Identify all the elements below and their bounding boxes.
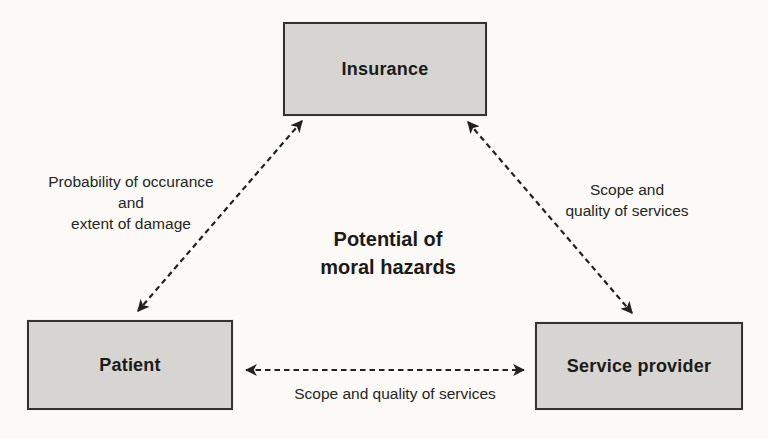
edge-label-line: Scope and [527, 179, 727, 200]
insurance-service-provider-edge-label: Scope and quality of services [527, 179, 727, 221]
moral-hazards-diagram: Insurance Patient Service provider Proba… [0, 0, 768, 439]
patient-service-provider-edge-label: Scope and quality of services [245, 383, 545, 404]
center-caption-line: Potential of [288, 225, 488, 253]
insurance-patient-edge-label: Probability of occurance and extent of d… [21, 171, 241, 234]
edge-label-line: extent of damage [21, 213, 241, 234]
service-provider-node: Service provider [535, 322, 743, 410]
service-provider-node-label: Service provider [567, 356, 711, 377]
edge-label-line: and [21, 192, 241, 213]
center-caption: Potential of moral hazards [288, 225, 488, 281]
patient-node-label: Patient [99, 355, 160, 376]
insurance-node: Insurance [283, 22, 487, 116]
edge-label-line: quality of services [527, 200, 727, 221]
center-caption-line: moral hazards [288, 253, 488, 281]
insurance-node-label: Insurance [342, 59, 429, 80]
patient-node: Patient [27, 320, 233, 410]
edge-label-line: Scope and quality of services [245, 383, 545, 404]
edge-label-line: Probability of occurance [21, 171, 241, 192]
